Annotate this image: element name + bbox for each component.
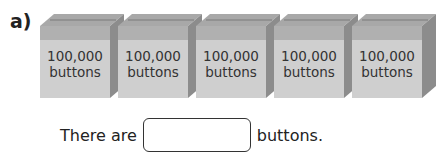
box-item: buttons [40, 64, 110, 80]
box-count: 100,000 [40, 48, 110, 64]
box-count: 100,000 [196, 48, 266, 64]
box-text: 100,000 buttons [196, 48, 266, 80]
box-count: 100,000 [274, 48, 344, 64]
box-front: 100,000 buttons [274, 26, 344, 98]
box-band [196, 26, 266, 40]
box-side-icon [422, 14, 436, 98]
button-box: 100,000 buttons [196, 14, 280, 98]
button-box: 100,000 buttons [274, 14, 358, 98]
box-item: buttons [196, 64, 266, 80]
box-text: 100,000 buttons [352, 48, 422, 80]
answer-sentence: There are buttons. [60, 118, 323, 152]
box-item: buttons [352, 64, 422, 80]
box-band [352, 26, 422, 40]
box-front: 100,000 buttons [118, 26, 188, 98]
sentence-suffix: buttons. [257, 126, 323, 145]
button-box: 100,000 buttons [352, 14, 436, 98]
box-text: 100,000 buttons [118, 48, 188, 80]
box-count: 100,000 [352, 48, 422, 64]
box-band [40, 26, 110, 40]
box-front: 100,000 buttons [352, 26, 422, 98]
box-item: buttons [274, 64, 344, 80]
button-box: 100,000 buttons [40, 14, 124, 98]
answer-input-box[interactable] [143, 118, 251, 152]
box-front: 100,000 buttons [196, 26, 266, 98]
box-item: buttons [118, 64, 188, 80]
box-text: 100,000 buttons [274, 48, 344, 80]
question-label: a) [10, 10, 32, 32]
box-count: 100,000 [118, 48, 188, 64]
sentence-prefix: There are [60, 126, 137, 145]
box-band [274, 26, 344, 40]
button-box: 100,000 buttons [118, 14, 202, 98]
box-text: 100,000 buttons [40, 48, 110, 80]
box-front: 100,000 buttons [40, 26, 110, 98]
box-band [118, 26, 188, 40]
